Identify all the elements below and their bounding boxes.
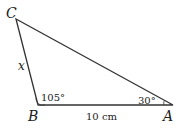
side-label-ab: 10 cm [86,111,118,122]
triangle-diagram: C B A x 10 cm 105° 30° [0,0,185,128]
angle-label-a: 30° [138,95,156,106]
angle-label-b: 105° [41,92,65,103]
vertex-label-a: A [161,108,173,124]
vertex-label-c: C [6,5,17,21]
vertex-label-b: B [27,108,38,124]
triangle-abc [16,19,173,105]
side-label-bc: x [18,59,25,73]
